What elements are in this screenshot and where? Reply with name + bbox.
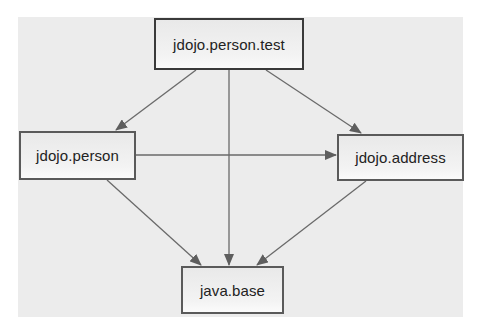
module-label: jdojo.address [355, 149, 446, 166]
module-node-person[interactable]: jdojo.person [19, 131, 136, 180]
module-label: jdojo.person.test [173, 36, 285, 53]
module-label: java.base [200, 282, 265, 299]
module-node-person-test[interactable]: jdojo.person.test [154, 18, 304, 70]
module-label: jdojo.person [36, 147, 119, 164]
edge-person-to-java-base [107, 180, 201, 265]
module-node-address[interactable]: jdojo.address [337, 134, 464, 181]
module-node-java-base[interactable]: java.base [181, 266, 284, 314]
edge-person-test-to-person [116, 70, 196, 130]
edge-person-test-to-address [266, 70, 361, 133]
edge-address-to-java-base [257, 181, 366, 265]
